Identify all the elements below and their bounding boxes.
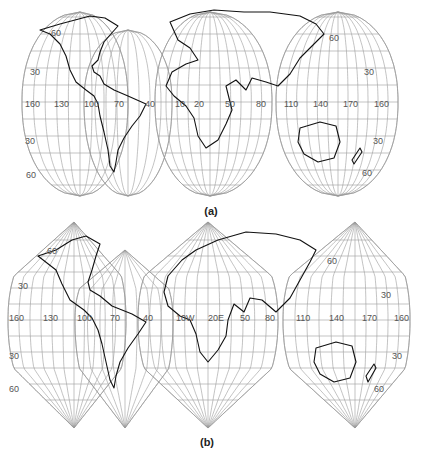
parallel-label: 60 (9, 384, 19, 394)
meridian-line (196, 222, 208, 428)
meridian-label: 140 (329, 313, 344, 323)
meridian-label: 100 (77, 313, 92, 323)
meridian-line (150, 222, 208, 428)
parallel-label: 30 (373, 136, 383, 146)
coastline (366, 364, 376, 382)
panel-b-meridian-labels: 160 130 100 70 40 10W 20E 50 80 110 140 … (9, 313, 409, 323)
meridian-label: 10 (175, 99, 185, 109)
meridian-label: 140 (313, 99, 328, 109)
meridian-line (208, 222, 266, 428)
coastline (352, 148, 362, 164)
coastline (40, 16, 146, 172)
meridian-line (113, 250, 126, 428)
meridian-line (63, 222, 74, 428)
meridian-line (128, 30, 161, 196)
meridian-label: 20 (194, 99, 204, 109)
meridian-label: 110 (284, 99, 298, 109)
panel-a-caption: (a) (204, 205, 218, 217)
panel-b-map (8, 222, 410, 428)
meridian-label: 20E (208, 313, 224, 323)
meridian-line (295, 222, 355, 428)
coastline (164, 232, 316, 362)
parallel-label: 30 (9, 351, 19, 361)
meridian-line (117, 30, 128, 196)
panel-a-meridian-labels: 160 130 100 70 40 10 20 50 80 110 140 17… (25, 99, 389, 109)
meridian-label: 100 (84, 99, 99, 109)
meridian-label: 110 (296, 313, 310, 323)
panel-b-caption: (b) (200, 436, 214, 448)
panel-a-map (22, 10, 398, 196)
parallel-label: 60 (362, 168, 372, 178)
parallel-label: 60 (327, 256, 337, 266)
lobe-outline (8, 222, 126, 428)
meridian-label: 10W (176, 313, 195, 323)
meridian-line (355, 222, 366, 428)
parallel-label: 30 (381, 290, 391, 300)
meridian-label: 160 (9, 313, 24, 323)
meridian-line (343, 222, 355, 428)
meridian-label: 160 (394, 313, 409, 323)
meridian-line (208, 222, 220, 428)
coastline (166, 10, 324, 148)
meridian-line (210, 12, 220, 196)
meridian-line (125, 250, 137, 428)
parallel-label: 60 (329, 33, 339, 43)
world-map-figure: 160 130 100 70 40 10 20 50 80 110 140 17… (0, 0, 422, 458)
meridian-label: 50 (225, 99, 235, 109)
meridian-label: 170 (362, 313, 377, 323)
parallel-label: 30 (392, 351, 402, 361)
meridian-label: 160 (374, 99, 389, 109)
meridian-label: 130 (54, 99, 69, 109)
meridian-label: 70 (114, 99, 124, 109)
parallel-label: 60 (26, 170, 36, 180)
parallel-label: 30 (364, 67, 374, 77)
meridian-label: 70 (110, 313, 120, 323)
meridian-line (355, 222, 410, 428)
meridian-line (68, 12, 80, 196)
meridian-label: 50 (240, 313, 250, 323)
meridian-line (128, 30, 139, 196)
coastline (314, 342, 356, 382)
meridian-label: 130 (43, 313, 58, 323)
parallel-label: 30 (30, 67, 40, 77)
meridian-label: 80 (265, 313, 275, 323)
parallel-label: 30 (18, 281, 28, 291)
meridian-line (74, 222, 84, 428)
meridian-label: 40 (143, 313, 153, 323)
meridian-label: 40 (145, 99, 155, 109)
meridian-label: 80 (256, 99, 266, 109)
parallel-label: 60 (47, 246, 57, 256)
parallel-label: 60 (51, 28, 61, 38)
parallel-label: 30 (25, 136, 35, 146)
parallel-label: 60 (374, 384, 384, 394)
meridian-label: 170 (343, 99, 358, 109)
lobe-outline (283, 222, 410, 428)
meridian-label: 160 (25, 99, 40, 109)
lobe-outline (155, 12, 272, 196)
